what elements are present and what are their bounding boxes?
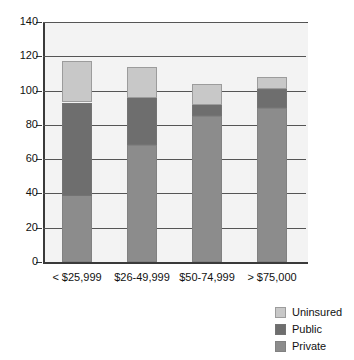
bar-segment-public[interactable] <box>127 97 157 145</box>
bar-group[interactable] <box>192 0 222 262</box>
stacked-bar-chart: 020406080100120140 < $25,999$26-49,999$5… <box>0 0 354 360</box>
bar-segment-private[interactable] <box>257 108 287 262</box>
legend-label: Uninsured <box>292 307 342 318</box>
bar-group[interactable] <box>62 0 92 262</box>
legend-swatch-icon <box>275 324 286 335</box>
y-axis-tick-label: 100 <box>20 85 38 96</box>
y-axis-tick-label: 20 <box>26 222 38 233</box>
bar-segment-uninsured[interactable] <box>192 84 222 105</box>
bar-segment-public[interactable] <box>62 103 92 196</box>
legend-item[interactable]: Private <box>275 339 353 354</box>
y-axis-tick-label: 0 <box>32 256 38 267</box>
bar-segment-uninsured[interactable] <box>127 67 157 98</box>
y-axis-tick-label: 140 <box>20 16 38 27</box>
y-axis-tick-label: 120 <box>20 50 38 61</box>
bar-segment-uninsured[interactable] <box>257 77 287 89</box>
bar-segment-private[interactable] <box>192 116 222 262</box>
bar-group[interactable] <box>257 0 287 262</box>
bar-segment-public[interactable] <box>192 104 222 116</box>
y-axis-tick-label: 40 <box>26 187 38 198</box>
legend-item[interactable]: Uninsured <box>275 305 353 320</box>
bar-segment-private[interactable] <box>62 195 92 262</box>
bar-group[interactable] <box>127 0 157 262</box>
y-axis-tick-label: 60 <box>26 153 38 164</box>
bar-segment-private[interactable] <box>127 145 157 262</box>
x-axis-category-label: > $75,000 <box>240 271 305 283</box>
legend-label: Private <box>292 341 326 352</box>
x-axis-category-label: < $25,999 <box>45 271 110 283</box>
bar-segment-public[interactable] <box>257 89 287 108</box>
legend-swatch-icon <box>275 341 286 352</box>
x-axis-category-label: $50-74,999 <box>175 271 240 283</box>
bar-segment-uninsured[interactable] <box>62 61 92 102</box>
legend-label: Public <box>292 324 322 335</box>
x-axis-category-label: $26-49,999 <box>110 271 175 283</box>
x-axis-line <box>43 262 308 264</box>
legend-item[interactable]: Public <box>275 322 353 337</box>
legend-swatch-icon <box>275 307 286 318</box>
y-axis-tick-label: 80 <box>26 119 38 130</box>
chart-legend: UninsuredPublicPrivate <box>275 305 353 356</box>
